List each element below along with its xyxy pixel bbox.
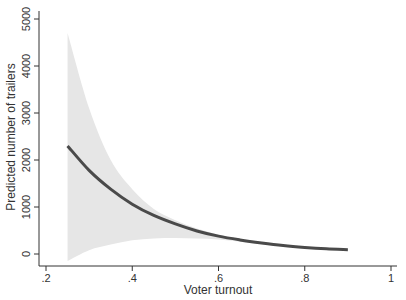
x-tick-label: .2: [41, 272, 50, 284]
x-tick-label: 1: [388, 272, 394, 284]
chart-svg: 010002000300040005000.2.4.6.81 Voter tur…: [0, 0, 406, 300]
y-axis-label: Predicted number of trailers: [4, 63, 18, 210]
y-tick-label: 0: [20, 251, 32, 257]
chart: 010002000300040005000.2.4.6.81 Voter tur…: [0, 0, 406, 300]
confidence-band: [68, 33, 348, 261]
y-tick-label: 1000: [20, 195, 32, 219]
y-tick-label: 4000: [20, 54, 32, 78]
x-tick-label: .4: [128, 272, 137, 284]
y-tick-label: 5000: [20, 7, 32, 31]
y-tick-label: 2000: [20, 148, 32, 172]
y-tick-label: 3000: [20, 101, 32, 125]
x-axis-label: Voter turnout: [184, 283, 253, 297]
confidence-band-area: [68, 33, 348, 261]
x-tick-label: .8: [300, 272, 309, 284]
